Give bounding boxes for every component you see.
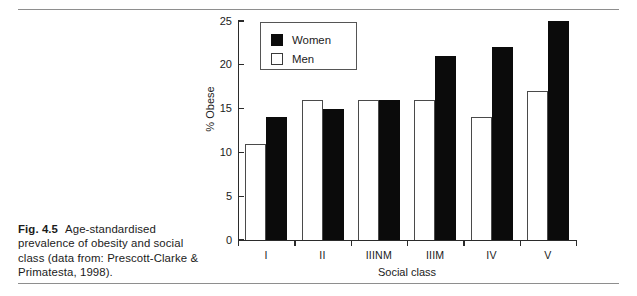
x-axis-tick-label-II: II (293, 249, 353, 261)
legend-swatch-women-icon (271, 34, 283, 46)
figure-number: Fig. 4.5 (18, 223, 58, 235)
legend-label-women: Women (292, 34, 331, 46)
x-axis-tick (520, 240, 521, 246)
chart-legend: Women Men (260, 22, 357, 70)
x-axis-tick-label-I: I (236, 249, 296, 261)
bar-women-IV (492, 47, 513, 240)
legend-item-women: Women (271, 30, 356, 49)
y-axis-tick (238, 20, 244, 21)
bar-women-II (323, 109, 344, 240)
y-axis-tick-label: 0 (206, 235, 232, 245)
legend-label-men: Men (292, 53, 314, 65)
y-axis-line (238, 21, 239, 241)
figure-caption: Fig. 4.5Age-standardised prevalence of o… (18, 222, 210, 280)
x-axis-tick (463, 240, 464, 246)
bar-women-IIIM (435, 56, 456, 240)
y-axis-tick-label: 5 (206, 191, 232, 201)
x-axis-tick (294, 240, 295, 246)
bar-chart: % Obese 0510152025IIIIIINMIIIMIVV Social… (196, 8, 624, 286)
bar-men-II (302, 100, 323, 240)
legend-item-men: Men (271, 49, 356, 68)
bar-women-IIINM (379, 100, 400, 240)
y-axis-tick (238, 152, 244, 153)
y-axis-tick (238, 108, 244, 109)
x-axis-label: Social class (238, 266, 576, 278)
x-axis-tick-label-IIIM: IIIM (405, 249, 465, 261)
y-axis-tick (238, 64, 244, 65)
bar-men-I (245, 144, 266, 240)
y-axis-tick-label: 10 (206, 147, 232, 157)
bar-men-IV (471, 117, 492, 240)
y-axis-tick-label: 15 (206, 103, 232, 113)
x-axis-tick-start (238, 240, 239, 246)
bar-men-IIIM (414, 100, 435, 240)
x-axis-tick (351, 240, 352, 246)
y-axis-tick-label: 20 (206, 59, 232, 69)
bar-women-V (548, 21, 569, 240)
x-axis-tick-end (576, 240, 577, 246)
x-axis-tick (407, 240, 408, 246)
legend-swatch-men-icon (271, 53, 283, 65)
bar-men-V (527, 91, 548, 240)
figure-page: Fig. 4.5Age-standardised prevalence of o… (0, 0, 637, 296)
x-axis-tick-label-IIINM: IIINM (349, 249, 409, 261)
y-axis-tick (238, 196, 244, 197)
x-axis-tick-label-V: V (518, 249, 578, 261)
bar-men-IIINM (358, 100, 379, 240)
bar-women-I (266, 117, 287, 240)
y-axis-tick-label: 25 (206, 16, 232, 26)
x-axis-tick-label-IV: IV (462, 249, 522, 261)
